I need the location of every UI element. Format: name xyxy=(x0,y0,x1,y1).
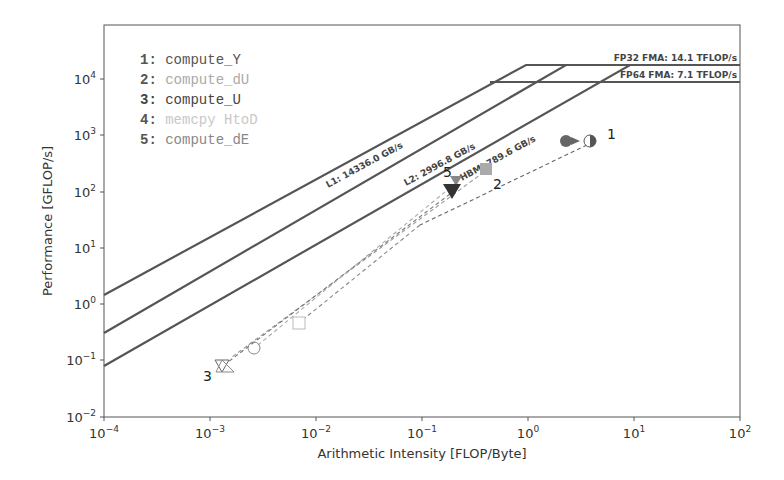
point-label-2: 2 xyxy=(493,176,502,192)
svg-text:100: 100 xyxy=(74,295,97,312)
svg-text:102: 102 xyxy=(74,183,96,200)
legend-entry-4: 4: memcpy HtoD xyxy=(140,112,258,128)
x-axis-label: Arithmetic Intensity [FLOP/Byte] xyxy=(317,446,526,461)
roofline-chart: L1: 14336.0 GB/s L2: 2996.8 GB/s HBM: 78… xyxy=(0,0,784,480)
svg-text:104: 104 xyxy=(74,70,97,87)
x-axis xyxy=(104,417,740,421)
point-1-filled[interactable] xyxy=(560,135,572,147)
point-label-1: 1 xyxy=(607,126,616,142)
svg-text:10−3: 10−3 xyxy=(195,424,225,441)
fp32-roof-label: FP32 FMA: 14.1 TFLOP/s xyxy=(614,53,737,63)
y-axis xyxy=(100,79,104,417)
y-axis-label: Performance [GFLOP/s] xyxy=(40,146,55,296)
legend-entry-2: 2: compute_dU xyxy=(140,72,249,88)
svg-text:102: 102 xyxy=(729,424,751,441)
point-label-5: 5 xyxy=(443,164,452,180)
svg-text:10−4: 10−4 xyxy=(89,424,119,441)
legend: 1: compute_Y 2: compute_dU 3: compute_U … xyxy=(140,52,258,148)
point-2-filled[interactable] xyxy=(480,163,492,175)
svg-text:10−1: 10−1 xyxy=(66,351,96,368)
svg-text:10−1: 10−1 xyxy=(407,424,437,441)
y-tick-labels: 10−2 10−1 100 101 102 103 104 xyxy=(66,70,96,425)
legend-entry-1: 1: compute_Y xyxy=(140,52,241,68)
svg-text:101: 101 xyxy=(74,239,96,256)
legend-entry-3: 3: compute_U xyxy=(140,92,241,108)
svg-text:10−2: 10−2 xyxy=(66,408,96,425)
svg-text:103: 103 xyxy=(74,126,96,143)
svg-text:100: 100 xyxy=(517,424,540,441)
legend-entry-5: 5: compute_dE xyxy=(140,132,249,148)
svg-text:101: 101 xyxy=(623,424,645,441)
fp64-roof-label: FP64 FMA: 7.1 TFLOP/s xyxy=(620,70,737,80)
point-label-3: 3 xyxy=(203,368,212,384)
svg-text:10−2: 10−2 xyxy=(301,424,331,441)
x-tick-labels: 10−4 10−3 10−2 10−1 100 101 102 xyxy=(89,424,751,441)
